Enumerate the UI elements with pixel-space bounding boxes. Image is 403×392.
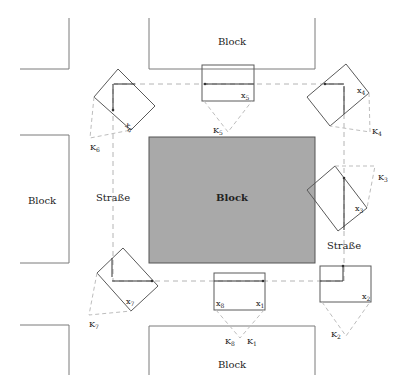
camera-6-fov [90,97,131,138]
top-block-label: Block [218,36,247,47]
vehicle-3 [307,166,367,231]
left-block-label: Block [28,195,57,206]
vehicle-6 [94,69,155,130]
vehicle-5-label: x5 [241,91,250,101]
camera-3-label: K3 [378,173,388,183]
center-block-label: Block [216,192,249,203]
bottom-block-label: Block [218,359,247,370]
bottom-left-block-corner [20,325,69,375]
vehicle-4 [307,64,369,126]
top-left-block-corner [20,18,69,69]
vehicle-8-label: x8 [216,299,225,309]
camera-7-fov [89,273,131,315]
vehicle-3-label: x3 [355,204,364,214]
camera-7-label: K7 [89,320,99,330]
vehicle-7-label: x7 [126,297,135,307]
camera-2-label: K2 [331,330,341,340]
camera-4-fov [330,93,370,132]
camera-1-label: K1 [247,337,257,347]
camera-8-label: K8 [225,337,235,347]
camera-5-label: K5 [213,126,223,136]
camera-5-fov [204,101,252,132]
camera-1-8-fov [216,310,264,338]
camera-3-fov [335,166,375,208]
vehicle-2-label: x2 [362,292,371,302]
vehicle-1-label: x1 [256,299,264,309]
camera-6-label: K6 [90,143,100,153]
vehicle-6-label: x6 [123,121,136,134]
camera-4-label: K4 [372,127,382,137]
street-diagram: Block Block Block Block Straße Straße x5… [0,0,403,392]
camera-2-fov [322,302,370,336]
